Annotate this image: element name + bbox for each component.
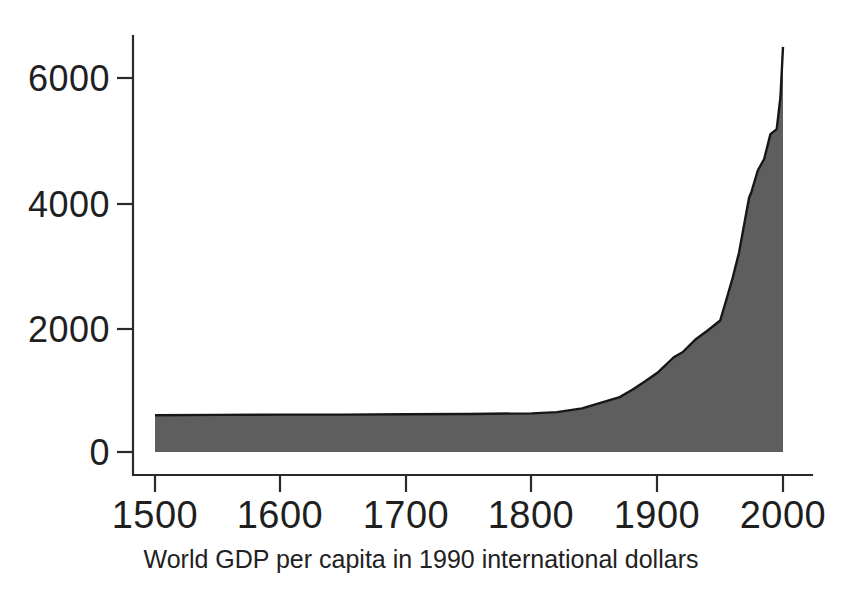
chart-caption: World GDP per capita in 1990 internation… bbox=[144, 545, 699, 573]
y-tick-label-6000: 6000 bbox=[28, 58, 110, 99]
chart-page: 0 2000 4000 6000 1500 1600 1700 1800 190… bbox=[0, 0, 845, 592]
y-tick-label-4000: 4000 bbox=[28, 184, 110, 225]
x-tick-label-1600: 1600 bbox=[237, 494, 324, 536]
y-tick-label-0: 0 bbox=[89, 432, 110, 473]
x-tick-label-1700: 1700 bbox=[363, 494, 450, 536]
x-tick-label-1500: 1500 bbox=[112, 494, 199, 536]
x-tick-label-1900: 1900 bbox=[614, 494, 701, 536]
y-tick-label-2000: 2000 bbox=[28, 309, 110, 350]
gdp-per-capita-area-chart: 0 2000 4000 6000 1500 1600 1700 1800 190… bbox=[0, 0, 845, 592]
x-tick-label-1800: 1800 bbox=[488, 494, 575, 536]
x-tick-label-2000: 2000 bbox=[740, 494, 827, 536]
